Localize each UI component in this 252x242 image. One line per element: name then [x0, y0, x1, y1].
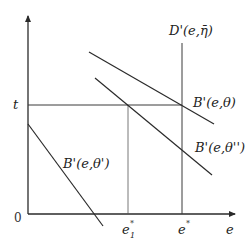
b-prime-theta-double-prime-curve — [95, 78, 212, 175]
e1-star-label: e — [122, 222, 130, 237]
b-prime-theta-double-prime-label: B'(e,θ'') — [194, 140, 245, 155]
b-prime-theta-prime-curve — [28, 124, 103, 226]
b-prime-theta-prime-label: B'(e,θ') — [62, 156, 110, 171]
e1-star-subscript: 1 — [130, 231, 135, 240]
e-star-label: e — [178, 222, 186, 237]
diagram-canvas: D'(e,η̄) B'(e,θ) B'(e,θ'') B'(e,θ') t 0 … — [0, 0, 252, 242]
e-star-superscript: * — [186, 219, 190, 228]
d-prime-label: D'(e,η̄) — [168, 23, 213, 38]
e1-star-superscript: * — [130, 219, 134, 228]
b-prime-theta-label: B'(e,θ) — [192, 95, 236, 110]
origin-label: 0 — [14, 211, 22, 225]
x-axis-label: e — [226, 222, 234, 237]
t-label: t — [13, 97, 19, 112]
